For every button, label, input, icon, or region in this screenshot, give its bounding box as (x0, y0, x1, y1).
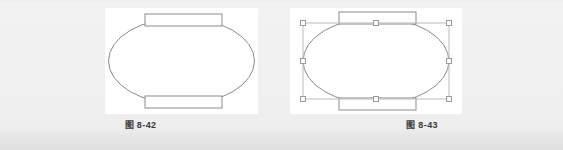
selection-handle-middle-right[interactable] (447, 59, 452, 64)
ellipse-body[interactable] (109, 18, 255, 104)
figure-8-43: 图 8-43 (281, 0, 563, 150)
figure-8-42: 图 8-42 (0, 0, 281, 150)
figure-8-42-canvas (105, 8, 258, 114)
selection-handle-top-right[interactable] (447, 21, 452, 26)
selection-handle-bottom-left[interactable] (301, 97, 306, 102)
figure-8-43-canvas (290, 8, 462, 114)
ellipse-body[interactable] (303, 18, 449, 104)
selection-handle-top-left[interactable] (301, 21, 306, 26)
selection-handle-top-center[interactable] (374, 21, 379, 26)
oval-shape-selected[interactable] (290, 8, 462, 114)
oval-shape-unselected[interactable] (105, 8, 258, 114)
selection-handle-bottom-right[interactable] (447, 97, 452, 102)
top-rectangle[interactable] (145, 14, 222, 26)
figure-8-42-caption: 图 8-42 (0, 118, 281, 131)
figure-8-43-caption: 图 8-43 (281, 118, 563, 131)
selection-handle-middle-left[interactable] (301, 59, 306, 64)
selection-handle-bottom-center[interactable] (374, 97, 379, 102)
bottom-rectangle[interactable] (145, 96, 222, 108)
